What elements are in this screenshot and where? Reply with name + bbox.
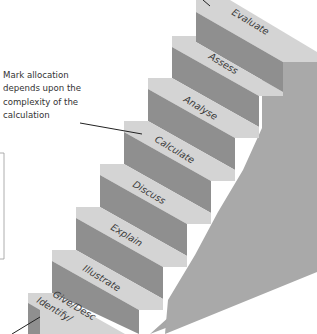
annotation-line-1: Mark allocation [3,69,143,82]
annotation-line-4: calculation [3,109,143,122]
annotation-line-2: depends upon the [3,82,143,95]
mark-allocation-annotation: Mark allocation depends upon the complex… [3,69,143,123]
staircase-diagram: Evaluate Assess Analyse Calculate Discus… [0,0,317,334]
annotation-line-3: complexity of the [3,96,143,109]
partial-box-border [0,153,4,259]
